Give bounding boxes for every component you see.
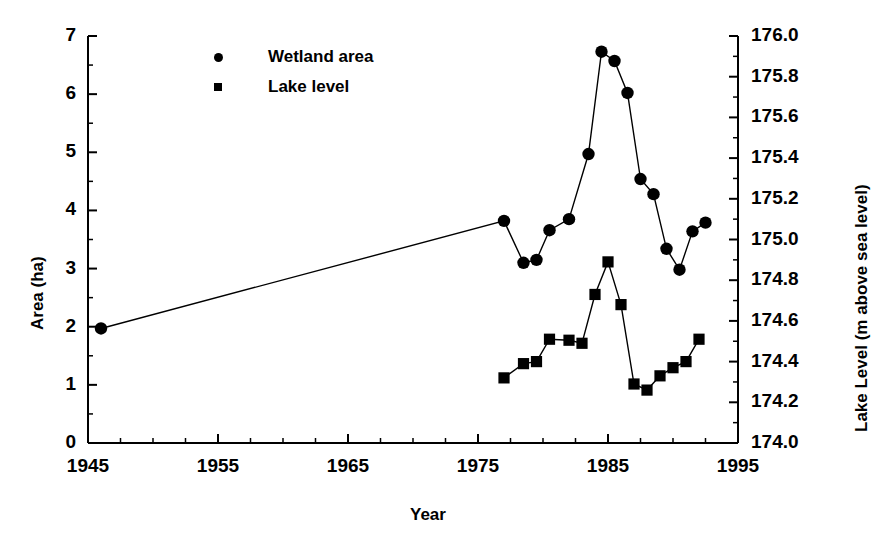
y-axis-right-tick-label: 174.8 (751, 268, 799, 290)
data-point-wetland-area (608, 55, 620, 67)
data-point-lake-level (615, 299, 626, 310)
y-axis-left-tick-label: 2 (40, 315, 76, 337)
legend-label-wetland-area: Wetland area (268, 47, 374, 67)
data-point-wetland-area (95, 322, 107, 334)
data-point-lake-level (654, 370, 665, 381)
x-axis-title: Year (410, 505, 446, 525)
data-point-wetland-area (621, 87, 633, 99)
x-axis-tick-label: 1965 (310, 455, 386, 477)
data-point-wetland-area (517, 257, 529, 269)
data-point-lake-level (518, 358, 529, 369)
data-point-wetland-area (647, 188, 659, 200)
y-axis-left-tick-label: 0 (40, 431, 76, 453)
data-point-lake-level (544, 334, 555, 345)
y-axis-left-tick-label: 7 (40, 24, 76, 46)
y-axis-right-tick-label: 175.6 (751, 105, 799, 127)
data-point-lake-level (563, 335, 574, 346)
data-point-lake-level (628, 378, 639, 389)
legend-marker-circle-icon (214, 53, 223, 62)
data-point-wetland-area (543, 224, 555, 236)
y-axis-right-tick-label: 174.4 (751, 350, 799, 372)
data-point-wetland-area (699, 216, 711, 228)
y-axis-right-tick-label: 175.0 (751, 228, 799, 250)
legend-marker-square-icon (214, 83, 222, 91)
chart-figure: Area (ha) Lake Level (m above sea level)… (0, 0, 876, 548)
data-point-wetland-area (634, 173, 646, 185)
data-point-lake-level (693, 334, 704, 345)
series-line-wetland-area (101, 52, 706, 329)
y-axis-right-tick-label: 174.2 (751, 390, 799, 412)
data-point-lake-level (667, 362, 678, 373)
data-point-wetland-area (563, 213, 575, 225)
y-axis-left-tick-label: 4 (40, 198, 76, 220)
data-point-wetland-area (498, 215, 510, 227)
x-axis-tick-label: 1955 (180, 455, 256, 477)
x-axis-tick-label: 1995 (700, 455, 776, 477)
data-point-lake-level (589, 289, 600, 300)
data-point-lake-level (602, 256, 613, 267)
data-point-lake-level (576, 338, 587, 349)
legend-label-lake-level: Lake level (268, 77, 349, 97)
y-axis-right-tick-label: 175.8 (751, 65, 799, 87)
y-axis-left-tick-label: 5 (40, 140, 76, 162)
y-axis-left-tick-label: 6 (40, 82, 76, 104)
data-point-wetland-area (660, 243, 672, 255)
data-point-lake-level (641, 384, 652, 395)
x-axis-tick-label: 1945 (50, 455, 126, 477)
x-axis-tick-label: 1975 (440, 455, 516, 477)
data-point-lake-level (680, 356, 691, 367)
y-axis-left-tick-label: 3 (40, 257, 76, 279)
data-point-wetland-area (595, 46, 607, 58)
data-point-wetland-area (582, 148, 594, 160)
y-axis-right-tick-label: 176.0 (751, 24, 799, 46)
y-axis-right-tick-label: 175.2 (751, 187, 799, 209)
y-axis-right-tick-label: 174.0 (751, 431, 799, 453)
y-axis-right-tick-label: 174.6 (751, 309, 799, 331)
data-point-wetland-area (530, 254, 542, 266)
x-axis-tick-label: 1985 (570, 455, 646, 477)
data-point-lake-level (498, 372, 509, 383)
y-axis-right-title: Lake Level (m above sea level) (852, 184, 872, 432)
y-axis-right-tick-label: 175.4 (751, 146, 799, 168)
data-point-lake-level (531, 356, 542, 367)
data-point-wetland-area (673, 264, 685, 276)
y-axis-left-tick-label: 1 (40, 373, 76, 395)
data-point-wetland-area (686, 225, 698, 237)
